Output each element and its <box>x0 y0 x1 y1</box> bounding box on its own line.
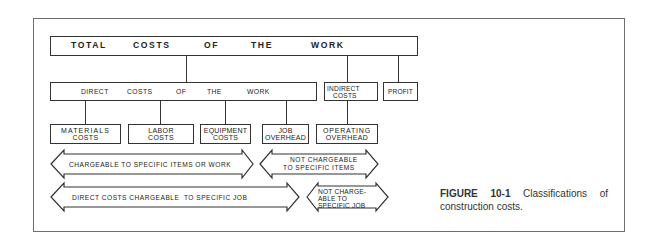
arrow-label-not-chargeable-job-2: ABLE TO <box>318 195 347 202</box>
arrow-label-direct-chargeable-job: DIRECT COSTS CHARGEABLE TO SPECIFIC JOB <box>72 194 247 201</box>
arrow-label-chargeable-items: CHARGEABLE TO SPECIFIC ITEMS OR WORK <box>69 161 231 168</box>
figure-caption: FIGURE 10-1 Classifications of construct… <box>440 188 608 213</box>
arrow-label-not-chargeable-job-3: SPECIFIC JOB <box>318 202 366 209</box>
arrow-label-not-chargeable-items-2: TO SPECIFIC ITEMS <box>283 164 355 171</box>
arrow-label-not-chargeable-job-1: NOT CHARGE- <box>318 188 366 195</box>
arrow-label-not-chargeable-items-1: NOT CHARGEABLE <box>290 156 358 163</box>
figure-label: FIGURE 10-1 <box>440 188 510 199</box>
